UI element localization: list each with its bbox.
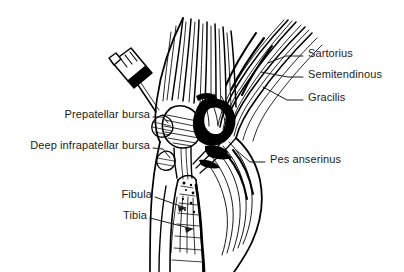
label-tibia: Tibia [0,209,147,221]
knee-illustration-svg [0,0,404,272]
label-gracilis: Gracilis [308,91,345,103]
label-fibula: Fibula [0,188,152,200]
label-semitendinous: Semitendinous [308,68,382,80]
label-prepatellar-bursa: Prepatellar bursa [0,108,150,120]
label-deep-infrapatellar-bursa: Deep infrapatellar bursa [0,139,150,151]
label-pes-anserinus: Pes anserinus [270,153,341,165]
knee-anatomy-figure: Sartorius Semitendinous Gracilis Pes ans… [0,0,404,272]
label-sartorius: Sartorius [308,47,353,59]
